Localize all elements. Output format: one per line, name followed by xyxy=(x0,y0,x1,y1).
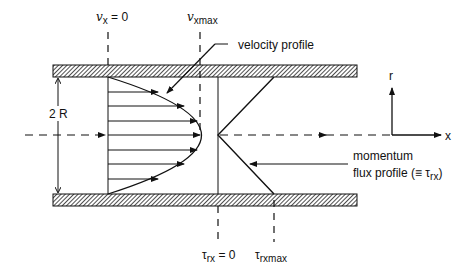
momentum-label-line1: momentum xyxy=(353,149,413,163)
flow-diagram: 2 R velocity profile r x vx = 0 vxmax mo… xyxy=(0,0,468,279)
axis-r-label: r xyxy=(389,69,393,83)
bottom-plate xyxy=(53,194,357,206)
tau-zero-label: τrx = 0 xyxy=(202,248,236,264)
velocity-profile-label: velocity profile xyxy=(238,38,314,52)
vx-max-label: vxmax xyxy=(187,10,218,26)
top-plate xyxy=(53,65,357,77)
momentum-label-line2: flux profile (≡ τrx) xyxy=(353,166,442,182)
axis-x-label: x xyxy=(445,129,451,143)
coordinate-axes xyxy=(392,88,441,135)
gap-label: 2 R xyxy=(49,107,68,121)
tau-max-label: τrxmax xyxy=(255,248,287,264)
vx-zero-label: vx = 0 xyxy=(96,10,128,26)
velocity-arrows xyxy=(108,92,200,179)
